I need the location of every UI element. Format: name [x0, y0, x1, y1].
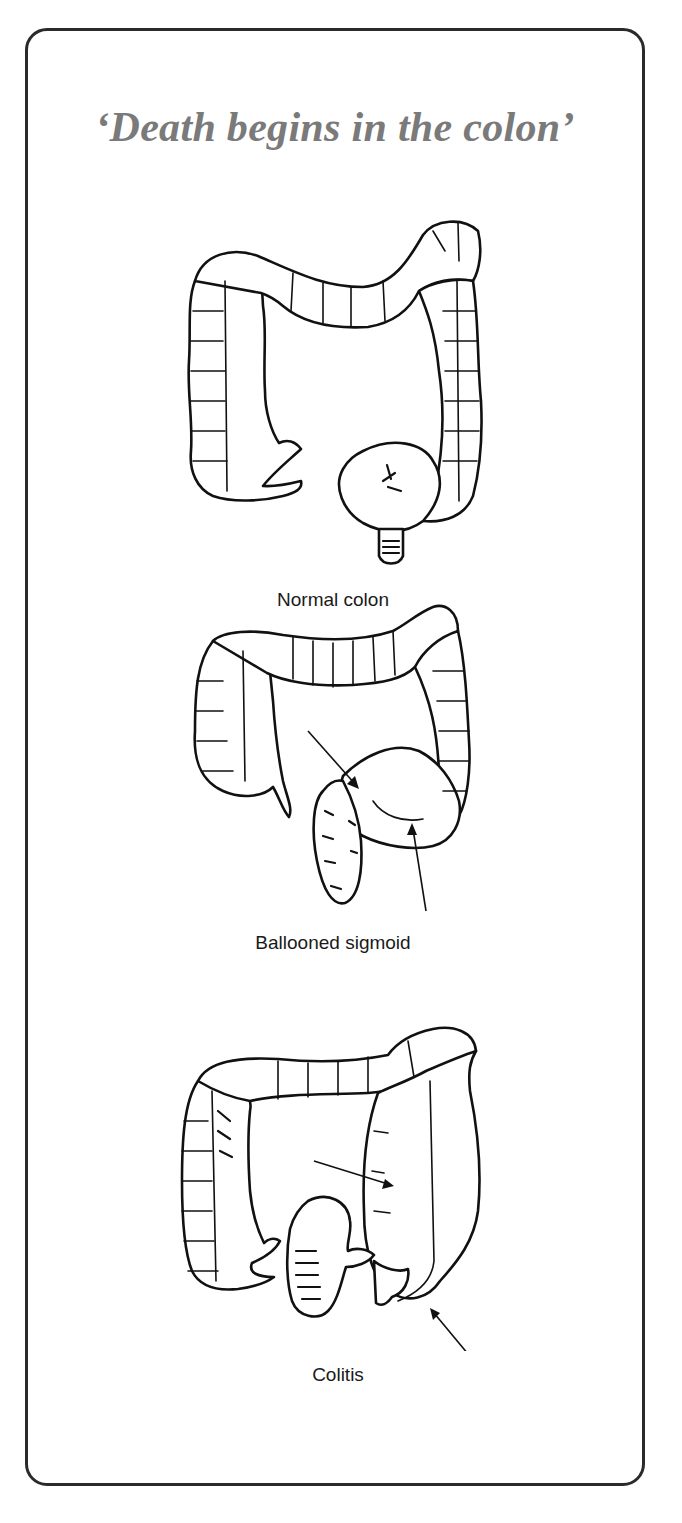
ballooned-sigmoid-illustration [183, 601, 483, 911]
figure-ballooned-sigmoid: Ballooned sigmoid [183, 601, 483, 961]
caption-ballooned-sigmoid: Ballooned sigmoid [183, 932, 483, 954]
cropped-text-above [0, 0, 682, 2]
colitis-illustration [178, 1011, 498, 1351]
normal-colon-illustration [183, 211, 483, 571]
figure-normal-colon: Normal colon [183, 211, 483, 611]
illustration-panel: ‘Death begins in the colon’ [25, 28, 645, 1486]
caption-colitis: Colitis [178, 1364, 498, 1386]
page-title: ‘Death begins in the colon’ [28, 103, 642, 151]
figure-colitis: Colitis [178, 1011, 498, 1391]
